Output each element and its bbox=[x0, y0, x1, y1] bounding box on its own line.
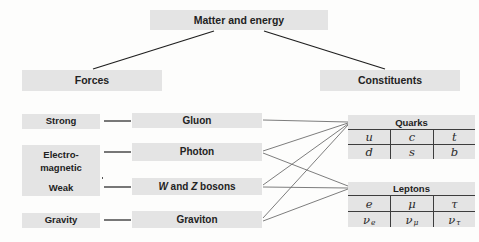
box-electromagnetic-weak: Electro- magnetic Weak bbox=[22, 145, 100, 196]
particle-physics-diagram: Matter and energy Forces Constituents St… bbox=[0, 0, 479, 242]
edge-gluon-quarks bbox=[263, 120, 348, 122]
particle-cell: νμ bbox=[390, 211, 432, 227]
strong-label: Strong bbox=[46, 116, 77, 127]
edge-matter-forces bbox=[93, 31, 214, 69]
particle-cell: μ bbox=[390, 195, 432, 211]
edge-graviton-quarks bbox=[263, 125, 348, 218]
edge-graviton-leptons bbox=[263, 189, 348, 221]
box-strong-force: Strong bbox=[22, 114, 100, 129]
particle-cell: νe bbox=[348, 211, 390, 227]
box-w-z-bosons: W and Z bosons bbox=[132, 178, 262, 195]
particle-cell: s bbox=[390, 144, 432, 159]
edge-photon-leptons bbox=[263, 153, 348, 186]
forces-label: Forces bbox=[75, 74, 109, 86]
box-constituents: Constituents bbox=[320, 70, 460, 91]
particle-cell: e bbox=[348, 195, 390, 211]
graviton-label: Graviton bbox=[176, 214, 217, 226]
edge-matter-constituents bbox=[264, 31, 385, 69]
constituents-label: Constituents bbox=[358, 74, 422, 86]
edge-wz-leptons bbox=[263, 187, 348, 188]
matter-energy-label: Matter and energy bbox=[194, 14, 284, 26]
particle-cell: d bbox=[348, 144, 390, 159]
edge-wz-quarks bbox=[263, 124, 348, 185]
wz-bosons-label: W and Z bosons bbox=[158, 181, 235, 193]
box-graviton: Graviton bbox=[132, 211, 262, 228]
box-gravity-force: Gravity bbox=[22, 213, 100, 228]
electromagnetic-label: Electro- magnetic bbox=[22, 145, 100, 178]
weak-label: Weak bbox=[22, 178, 100, 196]
photon-label: Photon bbox=[180, 146, 214, 158]
particle-cell: t bbox=[433, 129, 475, 144]
quarks-grid: uctdsb bbox=[348, 129, 475, 159]
gluon-label: Gluon bbox=[183, 115, 212, 127]
particle-cell: u bbox=[348, 129, 390, 144]
box-forces: Forces bbox=[22, 70, 162, 91]
box-photon: Photon bbox=[132, 143, 262, 161]
quarks-table-title: Quarks bbox=[348, 115, 475, 129]
quarks-table: Quarks uctdsb bbox=[348, 115, 475, 159]
particle-cell: b bbox=[433, 144, 475, 159]
leptons-table: Leptons eμτνeνμντ bbox=[348, 182, 475, 227]
leptons-table-title: Leptons bbox=[348, 182, 475, 195]
leptons-grid: eμτνeνμντ bbox=[348, 195, 475, 227]
particle-cell: c bbox=[390, 129, 432, 144]
gravity-label: Gravity bbox=[45, 215, 78, 226]
particle-cell: ντ bbox=[433, 211, 475, 227]
edge-photon-quarks bbox=[263, 123, 348, 151]
box-matter-energy: Matter and energy bbox=[150, 10, 328, 30]
box-gluon: Gluon bbox=[132, 113, 262, 128]
particle-cell: τ bbox=[433, 195, 475, 211]
